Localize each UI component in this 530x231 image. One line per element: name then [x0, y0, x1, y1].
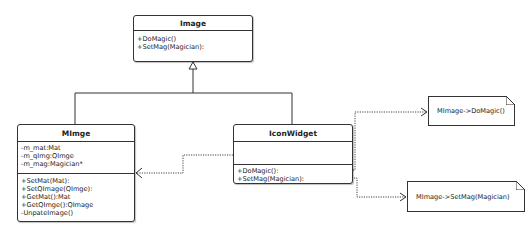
method: +DoMagic(): [237, 167, 349, 175]
class-methods: +DoMagic(): +SetMag(Magician): [234, 164, 352, 185]
class-name: MImge [18, 125, 134, 142]
method: +SetMat(Mat): [21, 177, 131, 185]
class-name: IconWidget [234, 125, 352, 142]
note-fold-icon [506, 96, 515, 105]
method: +SetMag(Magician): [237, 175, 349, 183]
attribute: -m_qImg:QImge [21, 152, 131, 160]
note-text: MImage->DoMagic() [437, 107, 505, 115]
class-name: Image [134, 16, 252, 31]
method: +SetMag(Magician): [137, 43, 249, 51]
method: +GetQImge():QImage [21, 201, 131, 209]
dependency-arrowhead-icon [136, 168, 142, 178]
method: +SetQImage(QImge): [21, 185, 131, 193]
note-text: MImage->SetMag(Magician) [416, 193, 510, 201]
method: -UnpateImage() [21, 209, 131, 217]
dependency-line [136, 155, 233, 173]
note-arrowhead-icon [421, 108, 427, 116]
attribute: -m_mag:Magician* [21, 160, 131, 168]
method: +DoMagic() [137, 35, 249, 43]
class-attributes: -m_mat:Mat -m_qImg:QImge -m_mag:Magician… [18, 142, 134, 173]
class-methods: +DoMagic() +SetMag(Magician): [134, 31, 252, 53]
note-domagic[interactable]: MImage->DoMagic() [428, 96, 515, 126]
note-fold-icon [516, 181, 525, 190]
class-image[interactable]: Image +DoMagic() +SetMag(Magician): [133, 15, 253, 62]
generalization-arrowhead-icon [189, 62, 197, 69]
class-iconwidget[interactable]: IconWidget +DoMagic(): +SetMag(Magician)… [233, 124, 353, 184]
generalization-lines [75, 69, 292, 124]
attribute: -m_mat:Mat [21, 144, 131, 152]
class-methods: +SetMat(Mat): +SetQImage(QImge): +GetMat… [18, 173, 134, 219]
class-attributes [234, 142, 352, 164]
class-mimge[interactable]: MImge -m_mat:Mat -m_qImg:QImge -m_mag:Ma… [17, 124, 135, 222]
method: +GetMat():Mat [21, 193, 131, 201]
note-setmag[interactable]: MImage->SetMag(Magician) [407, 181, 525, 212]
